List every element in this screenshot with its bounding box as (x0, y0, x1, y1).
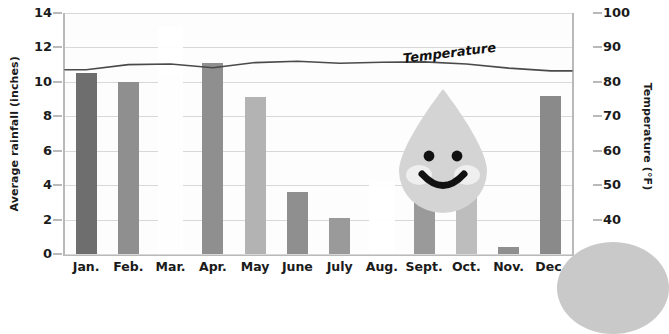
y-axis-right-tick-label: 50 (603, 178, 621, 191)
y-axis-left-tick-label: 6 (43, 144, 52, 157)
month-label-mar: Mar. (150, 259, 192, 274)
y-axis-right-tick-label: 100 (603, 6, 630, 19)
y-axis-left-tick-mark (53, 253, 62, 255)
y-axis-right-ticks: 30405060708090100 (593, 0, 633, 288)
y-axis-left-tick-label: 10 (34, 75, 52, 88)
y-axis-right-tick-mark (593, 46, 602, 48)
y-axis-left-tick-label: 12 (34, 40, 52, 53)
month-label-july: July (319, 259, 361, 274)
y-axis-left-tick-label: 2 (43, 213, 52, 226)
y-axis-right-tick-mark (593, 12, 602, 14)
y-axis-right-tick-label: 30 (603, 247, 621, 260)
y-axis-left-tick-mark (53, 81, 62, 83)
y-axis-right-tick-mark (593, 115, 602, 117)
y-axis-right-tick-label: 80 (603, 75, 621, 88)
y-axis-left-tick-label: 8 (43, 109, 52, 122)
gridline (65, 254, 572, 255)
y-axis-left-ticks: 02468101214 (22, 0, 62, 288)
y-axis-left-tick-mark (53, 115, 62, 117)
y-axis-right-tick-label: 40 (603, 213, 621, 226)
y-axis-left-tick-mark (53, 46, 62, 48)
y-axis-left-title: Average rainfall (inches) (8, 62, 21, 212)
month-label-oct: Oct. (445, 259, 487, 274)
month-label-sept: Sept. (403, 259, 445, 274)
month-label-jan: Jan. (65, 259, 107, 274)
y-axis-left-tick-mark (53, 12, 62, 14)
y-axis-right-tick-mark (593, 150, 602, 152)
y-axis-right-tick-mark (593, 81, 602, 83)
y-axis-left-tick-mark (53, 184, 62, 186)
y-axis-left-tick-label: 14 (34, 6, 52, 19)
month-label-feb: Feb. (107, 259, 149, 274)
y-axis-right-tick-label: 70 (603, 109, 621, 122)
month-label-may: May (234, 259, 276, 274)
x-axis-month-labels: Jan.Feb.Mar.Apr.MayJuneJulyAug.Sept.Oct.… (65, 259, 572, 285)
y-axis-right-tick-label: 90 (603, 40, 621, 53)
y-axis-right-tick-mark (593, 253, 602, 255)
month-label-nov: Nov. (488, 259, 530, 274)
month-label-apr: Apr. (192, 259, 234, 274)
axis-line-right (572, 13, 574, 254)
y-axis-right-title: Temperature (°F) (641, 62, 654, 212)
y-axis-left-tick-mark (53, 150, 62, 152)
y-axis-left-tick-mark (53, 219, 62, 221)
month-label-dec: Dec. (530, 259, 572, 274)
y-axis-right-tick-label: 60 (603, 144, 621, 157)
y-axis-right-tick-mark (593, 184, 602, 186)
y-axis-right-tick-mark (593, 219, 602, 221)
y-axis-left-tick-label: 0 (43, 247, 52, 260)
month-label-june: June (276, 259, 318, 274)
plot-area: Temperature (65, 13, 572, 254)
y-axis-left-tick-label: 4 (43, 178, 52, 191)
month-label-aug: Aug. (361, 259, 403, 274)
